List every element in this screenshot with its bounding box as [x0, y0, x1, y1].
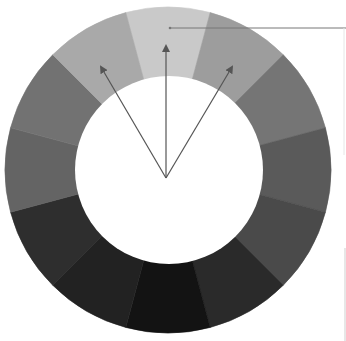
- edge-marks: [344, 28, 345, 341]
- leader-dot: [169, 27, 172, 30]
- wheel-center-hole: [75, 76, 263, 264]
- color-wheel-diagram: [0, 0, 346, 341]
